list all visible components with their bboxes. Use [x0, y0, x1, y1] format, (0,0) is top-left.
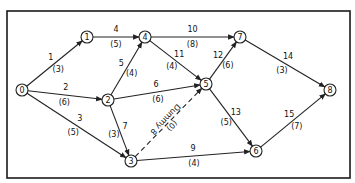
activity-label: 13: [231, 108, 241, 117]
duration-label: (6): [59, 98, 70, 107]
activity-label: 1: [48, 53, 53, 62]
activity-label: 9: [190, 144, 195, 153]
node-5: 5: [200, 78, 212, 90]
duration-label: (3): [53, 65, 64, 74]
svg-text:4: 4: [142, 33, 147, 42]
activity-label: 15: [284, 110, 294, 119]
node-6: 6: [250, 145, 262, 157]
duration-label: (3): [108, 130, 119, 139]
edge-6-8: [261, 94, 326, 147]
edge-7-8: [245, 40, 325, 87]
labels-layer: 1(3)2(6)3(5)4(5)5(4)6(6)7(3)Dummy 8(0)9(…: [48, 25, 302, 168]
activity-label: 2: [63, 83, 68, 92]
duration-label: (3): [276, 66, 287, 75]
node-4: 4: [139, 31, 151, 43]
activity-label: 7: [123, 122, 128, 131]
activity-label: 14: [283, 52, 293, 61]
duration-label: (7): [291, 122, 302, 131]
duration-label: (6): [222, 61, 233, 70]
activity-label: 4: [113, 25, 118, 34]
svg-text:6: 6: [253, 147, 258, 156]
svg-text:0: 0: [19, 86, 24, 95]
svg-text:2: 2: [105, 96, 110, 105]
node-3: 3: [125, 155, 137, 167]
duration-label: (5): [110, 40, 121, 49]
node-8: 8: [324, 84, 336, 96]
duration-label: (4): [188, 159, 199, 168]
duration-label: (4): [126, 69, 137, 78]
edge-0-1: [27, 41, 83, 86]
activity-label: 5: [119, 59, 124, 68]
svg-text:7: 7: [237, 33, 242, 42]
network-diagram: 1(3)2(6)3(5)4(5)5(4)6(6)7(3)Dummy 8(0)9(…: [0, 0, 355, 183]
activity-label: 10: [187, 25, 197, 34]
svg-text:5: 5: [203, 80, 208, 89]
node-2: 2: [102, 94, 114, 106]
svg-text:3: 3: [128, 157, 133, 166]
svg-text:8: 8: [327, 86, 332, 95]
duration-label: (4): [166, 62, 177, 71]
svg-text:1: 1: [84, 33, 89, 42]
activity-label: 3: [77, 114, 82, 123]
node-1: 1: [81, 31, 93, 43]
duration-label: (6): [152, 95, 163, 104]
activity-label: Dummy 8: [148, 102, 182, 136]
activity-label: 12: [213, 51, 223, 60]
activity-label: 11: [174, 50, 184, 59]
node-7: 7: [234, 31, 246, 43]
node-0: 0: [16, 84, 28, 96]
duration-label: (5): [68, 128, 79, 137]
activity-label: 6: [153, 80, 158, 89]
duration-label: (5): [221, 118, 232, 127]
duration-label: (8): [187, 40, 198, 49]
